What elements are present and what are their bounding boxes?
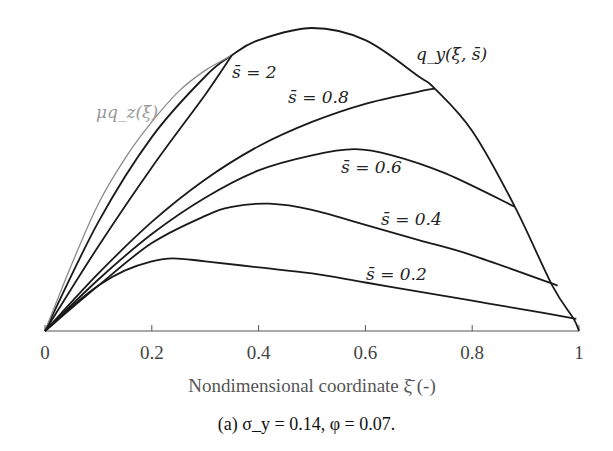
chart-canvas: 00.20.40.60.81 s̄ = 2 s̄ = 0.8 s̄ = 0.6 … [0, 0, 613, 451]
curve-s-0-6 [45, 149, 515, 331]
curve-s-0-2 [45, 258, 576, 331]
x-axis-label: Nondimensional coordinate ξ̄ (-) [188, 375, 435, 397]
curve-q-y-s- [45, 28, 579, 331]
curve-s-0-4 [45, 204, 558, 331]
x-tick-label: 0.4 [247, 342, 271, 363]
label-s06: s̄ = 0.6 [341, 157, 402, 177]
x-tick-label: 0.2 [140, 342, 164, 363]
label-s2: s̄ = 2 [232, 62, 277, 82]
curve-s-0-8 [45, 89, 435, 331]
label-muqz: μq_z(ξ̄) [96, 102, 158, 122]
x-tick-label: 1 [574, 342, 584, 363]
x-tick-label: 0.8 [460, 342, 484, 363]
label-s04: s̄ = 0.4 [381, 209, 442, 229]
curves [45, 28, 579, 331]
label-s02: s̄ = 0.2 [366, 264, 427, 284]
x-tick-label: 0.6 [354, 342, 378, 363]
figure-caption: (a) σ_y = 0.14, φ = 0.07. [0, 414, 613, 435]
x-tick-label: 0 [40, 342, 50, 363]
label-qy: q_y(ξ̄, s̄) [416, 44, 487, 64]
curve-s-2 [45, 55, 232, 331]
label-s08: s̄ = 0.8 [288, 87, 349, 107]
